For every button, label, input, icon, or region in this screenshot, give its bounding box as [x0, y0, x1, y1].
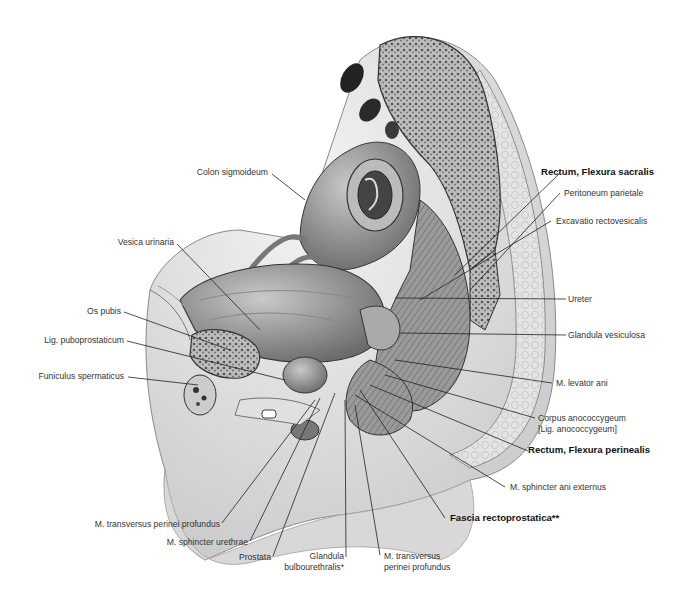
label-m-transversus-perinei-profundus-left: M. transversus perinei profundus	[95, 519, 220, 529]
label-m-levator-ani: M. levator ani	[556, 378, 608, 388]
label-m-sphincter-ani-externus: M. sphincter ani externus	[510, 482, 606, 492]
label-vesica-urinaria: Vesica urinaria	[118, 237, 174, 247]
label-glandula-vesiculosa: Glandula vesiculosa	[568, 330, 645, 340]
label-funiculus-spermaticus: Funiculus spermaticus	[39, 371, 125, 381]
label-prostata: Prostata	[239, 552, 271, 562]
label-fascia-rectoprostatica: Fascia rectoprostatica**	[450, 513, 559, 523]
label-m-transversus-perinei-profundus-right-line1: M. transversus	[384, 551, 440, 561]
label-corpus-anococcygeum: Corpus anococcygeum	[538, 413, 626, 423]
label-ureter: Ureter	[568, 294, 592, 304]
label-lig-anococcygeum: [Lig. anococcygeum]	[538, 424, 617, 434]
label-glandula-bulbourethralis-line1: Glandula	[310, 551, 344, 561]
label-m-transversus-perinei-profundus-right-line2: perinei profundus	[384, 562, 450, 572]
label-peritoneum-parietale: Peritoneum parietale	[564, 188, 643, 198]
label-glandula-bulbourethralis-line2: bulbourethralis*	[284, 562, 344, 572]
label-colon-sigmoideum: Colon sigmoideum	[197, 167, 268, 177]
label-excavatio-rectovesicalis: Excavatio rectovesicalis	[556, 216, 647, 226]
label-m-sphincter-urethrae: M. sphincter urethrae	[167, 537, 248, 547]
label-rectum-flexura-sacralis: Rectum, Flexura sacralis	[541, 167, 654, 177]
label-lig-puboprostaticum: Lig. puboprostaticum	[44, 335, 124, 345]
label-os-pubis: Os pubis	[87, 306, 121, 316]
label-rectum-flexura-perinealis: Rectum, Flexura perinealis	[528, 445, 650, 455]
